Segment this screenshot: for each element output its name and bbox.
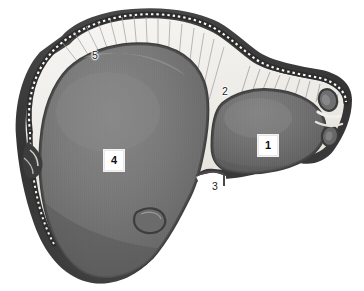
interlobar-notch bbox=[196, 172, 226, 186]
callout-label-5[interactable]: 5 bbox=[92, 50, 98, 61]
anatomical-figure: 1 2 3 4 5 bbox=[0, 0, 364, 291]
callout-label-1[interactable]: 1 bbox=[258, 135, 278, 156]
liver-illustration bbox=[0, 0, 364, 291]
callout-label-3[interactable]: 3 bbox=[212, 181, 218, 192]
callout-label-4[interactable]: 4 bbox=[104, 150, 124, 171]
callout-label-2[interactable]: 2 bbox=[222, 86, 228, 97]
gallbladder-bulge bbox=[134, 208, 165, 233]
